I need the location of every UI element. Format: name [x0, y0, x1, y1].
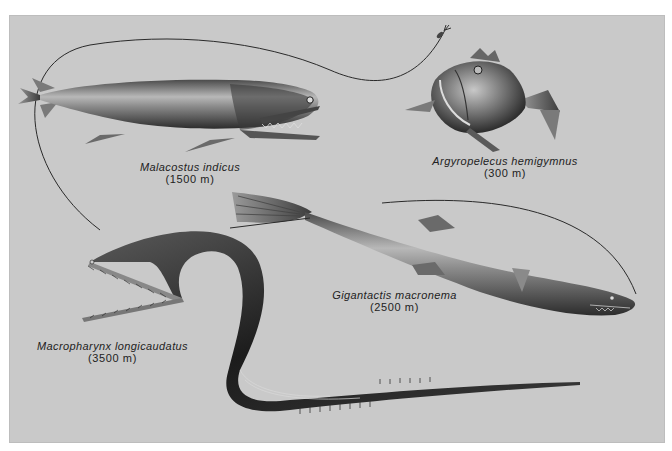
species-label-malacostus: Malacostus indicus (1500 m) — [115, 161, 265, 185]
species-name: Macropharynx longicaudatus — [25, 340, 200, 352]
species-depth: (3500 m) — [25, 352, 200, 364]
species-name: Gigantactis macronema — [322, 289, 467, 301]
species-label-macropharynx: Macropharynx longicaudatus (3500 m) — [25, 340, 200, 364]
species-depth: (1500 m) — [115, 173, 265, 185]
argyropelecus-hemigymnus-fish — [405, 48, 560, 152]
species-depth: (2500 m) — [322, 301, 467, 313]
species-name: Malacostus indicus — [115, 161, 265, 173]
species-name: Argyropelecus hemigymnus — [420, 155, 590, 167]
macropharynx-longicaudatus-fish — [82, 231, 580, 414]
deep-sea-fish-illustration — [0, 0, 672, 451]
species-label-argyropelecus: Argyropelecus hemigymnus (300 m) — [420, 155, 590, 179]
malacostus-indicus-fish — [18, 78, 320, 152]
species-depth: (300 m) — [420, 167, 590, 179]
species-label-gigantactis: Gigantactis macronema (2500 m) — [322, 289, 467, 313]
